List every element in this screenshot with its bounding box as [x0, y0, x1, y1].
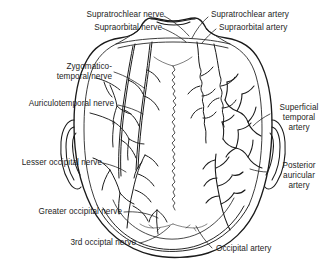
third-occipital-nerve-path — [149, 210, 167, 234]
label-superficial-temporal-artery: Superficial temporal artery — [276, 103, 322, 133]
supraorbital-artery-path — [208, 44, 236, 127]
label-posterior-auricular-artery-line1: Posterior — [276, 161, 322, 171]
leader-third-occipital-nerve — [140, 226, 170, 243]
label-lesser-occipital-nerve-text: Lesser occipital nerve — [2, 158, 102, 168]
label-zygomaticotemporal-nerve-line1: Zygomatico- — [10, 62, 112, 72]
leader-lines — [103, 16, 270, 248]
label-posterior-auricular-artery: Posterior auricular artery — [276, 161, 322, 191]
label-greater-occipital-nerve-text: Greater occipital nerve — [14, 207, 122, 217]
sagittal-suture — [172, 66, 176, 210]
supratrochlear-nerve-path — [136, 42, 160, 170]
label-supraorbital-artery: Supraorbital artery — [219, 23, 322, 33]
label-zygomaticotemporal-nerve-line2: temporal nerve — [10, 72, 112, 82]
leader-lesser-occipital-nerve — [103, 163, 126, 172]
label-supratrochlear-artery: Supratrochlear artery — [211, 10, 322, 20]
label-supraorbital-nerve-text: Supraorbital nerve — [40, 23, 162, 33]
label-occipital-artery: Occipital artery — [216, 244, 306, 254]
label-auriculotemporal-nerve: Auriculotemporal nerve — [4, 99, 114, 109]
leader-occipital-artery — [196, 226, 212, 248]
greater-occipital-nerve-path — [127, 155, 158, 228]
label-supraorbital-artery-text: Supraorbital artery — [219, 23, 322, 33]
label-greater-occipital-nerve: Greater occipital nerve — [14, 207, 122, 217]
anatomy-illustration — [0, 0, 322, 270]
label-supratrochlear-nerve: Supratrochlear nerve — [36, 10, 164, 20]
label-supratrochlear-artery-text: Supratrochlear artery — [211, 10, 322, 20]
label-auriculotemporal-nerve-text: Auriculotemporal nerve — [4, 99, 114, 109]
label-superficial-temporal-artery-line3: artery — [276, 123, 322, 133]
label-occipital-artery-text: Occipital artery — [216, 244, 306, 254]
occipital-artery-path — [203, 154, 245, 230]
label-superficial-temporal-artery-line1: Superficial — [276, 103, 322, 113]
figure-canvas: Supratrochlear nerve Supraorbital nerve … — [0, 0, 322, 270]
occipital-inner-fold — [113, 198, 234, 239]
supraorbital-nerve-path — [119, 44, 143, 178]
label-supratrochlear-nerve-text: Supratrochlear nerve — [36, 10, 164, 20]
label-third-occipital-nerve: 3rd occiptal nerve — [52, 238, 136, 248]
left-ear — [61, 120, 81, 189]
superficial-temporal-artery-path — [225, 74, 261, 136]
leader-supraorbital-nerve — [162, 28, 186, 42]
coronal-suture — [154, 57, 192, 66]
label-posterior-auricular-artery-line2: auricular — [276, 171, 322, 181]
label-zygomaticotemporal-nerve: Zygomatico- temporal nerve — [10, 62, 112, 82]
label-third-occipital-nerve-text: 3rd occiptal nerve — [52, 238, 136, 248]
label-superficial-temporal-artery-line2: temporal — [276, 113, 322, 123]
label-posterior-auricular-artery-line3: artery — [276, 181, 322, 191]
label-supraorbital-nerve: Supraorbital nerve — [40, 23, 162, 33]
label-lesser-occipital-nerve: Lesser occipital nerve — [2, 158, 102, 168]
